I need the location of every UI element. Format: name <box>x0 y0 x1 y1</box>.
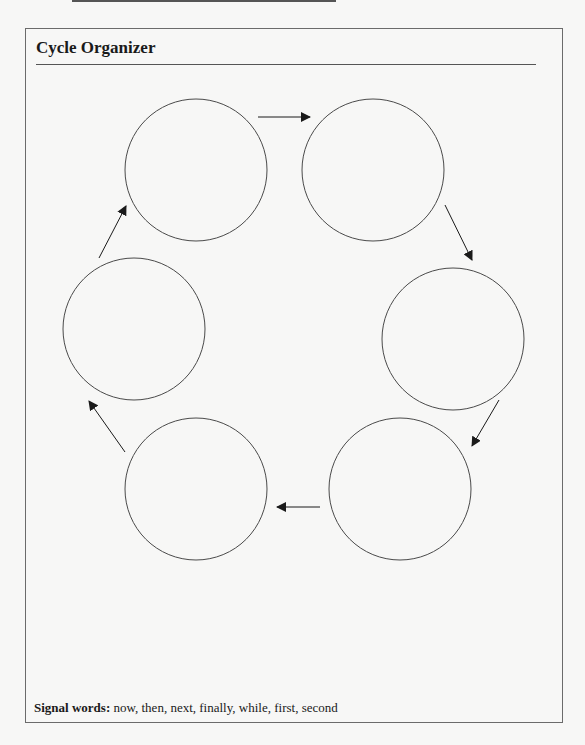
cycle-step-circle-1[interactable] <box>125 99 267 241</box>
cycle-step-circle-4[interactable] <box>329 418 471 560</box>
cycle-step-circle-5[interactable] <box>125 418 267 560</box>
arrow-icon-2-to-3 <box>445 205 472 260</box>
cycle-step-circle-2[interactable] <box>302 99 444 241</box>
arrow-icon-5-to-6 <box>89 401 125 452</box>
arrow-icon-6-to-1 <box>99 206 126 258</box>
arrow-icon-3-to-4 <box>472 400 499 446</box>
cycle-step-circle-6[interactable] <box>63 258 205 400</box>
cycle-diagram <box>0 0 585 745</box>
cycle-step-circle-3[interactable] <box>382 268 524 410</box>
